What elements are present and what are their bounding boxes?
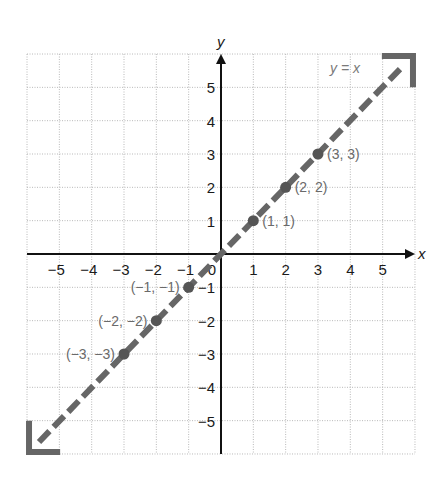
data-point xyxy=(119,348,130,359)
coordinate-plane: −5−4−3−2−101234554321−1−2−3−4−5 (1, 1)(2… xyxy=(0,0,443,487)
point-label: (3, 3) xyxy=(327,146,360,162)
x-tick-label: 2 xyxy=(281,261,289,278)
y-tick-label: −5 xyxy=(198,413,215,430)
y-tick-label: −2 xyxy=(198,313,215,330)
y-tick-label: 5 xyxy=(207,79,215,96)
equation-label: y = x xyxy=(329,60,361,76)
x-tick-label: 5 xyxy=(378,261,386,278)
data-point xyxy=(248,215,259,226)
y-tick-label: 3 xyxy=(207,146,215,163)
x-tick-label: 3 xyxy=(314,261,322,278)
x-tick-label: 4 xyxy=(346,261,354,278)
y-tick-label: 1 xyxy=(207,213,215,230)
data-point xyxy=(151,315,162,326)
y-tick-label: −4 xyxy=(198,379,215,396)
x-tick-label: −3 xyxy=(112,261,129,278)
y-tick-label: −1 xyxy=(198,279,215,296)
point-label: (1, 1) xyxy=(262,213,295,229)
point-label: (2, 2) xyxy=(295,179,328,195)
point-label: (−2, −2) xyxy=(98,313,147,329)
y-tick-label: −3 xyxy=(198,346,215,363)
x-axis-label: x xyxy=(417,245,426,262)
x-tick-label: −4 xyxy=(80,261,97,278)
x-tick-label: −1 xyxy=(177,261,194,278)
x-tick-label: −5 xyxy=(48,261,65,278)
data-point xyxy=(312,149,323,160)
y-axis-label: y xyxy=(216,33,226,50)
point-label: (−1, −1) xyxy=(131,279,180,295)
point-label: (−3, −3) xyxy=(66,346,115,362)
x-tick-label: −2 xyxy=(145,261,162,278)
x-tick-label: 1 xyxy=(249,261,257,278)
data-point xyxy=(183,282,194,293)
data-point xyxy=(280,182,291,193)
y-tick-label: 4 xyxy=(207,113,215,130)
y-tick-label: 2 xyxy=(207,179,215,196)
